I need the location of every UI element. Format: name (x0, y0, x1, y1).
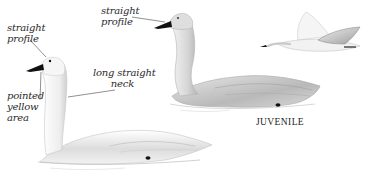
label-adult-bill: pointed yellow area (7, 90, 44, 123)
juvenile-swan (154, 13, 320, 111)
flying-swan-bill (260, 45, 267, 47)
adult-eye (49, 60, 51, 62)
swan-illustration (0, 0, 373, 173)
label-adult-neck: long straight neck (93, 67, 156, 89)
juvenile-swan-bill (154, 21, 172, 29)
caption-juvenile: JUVENILE (256, 117, 304, 127)
adult-swan-bill (26, 64, 44, 72)
adult-swan-body (40, 130, 212, 164)
adult-swan-head (42, 57, 65, 75)
label-adult-profile: straight profile (7, 22, 45, 44)
flying-swan (260, 12, 360, 51)
leader-adult-neck (68, 90, 115, 97)
label-juvenile-profile: straight profile (101, 5, 139, 27)
adult-foot (146, 156, 151, 160)
juvenile-swan-head (170, 13, 193, 29)
juvenile-foot (276, 103, 281, 107)
juvenile-eye (177, 17, 179, 19)
